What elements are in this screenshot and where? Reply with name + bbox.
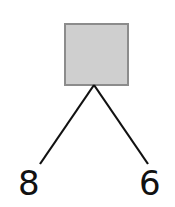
right-branch-line [94, 85, 148, 164]
part-right-number: 6 [139, 166, 161, 200]
left-branch-line [40, 85, 94, 164]
part-left-number: 8 [18, 166, 40, 200]
